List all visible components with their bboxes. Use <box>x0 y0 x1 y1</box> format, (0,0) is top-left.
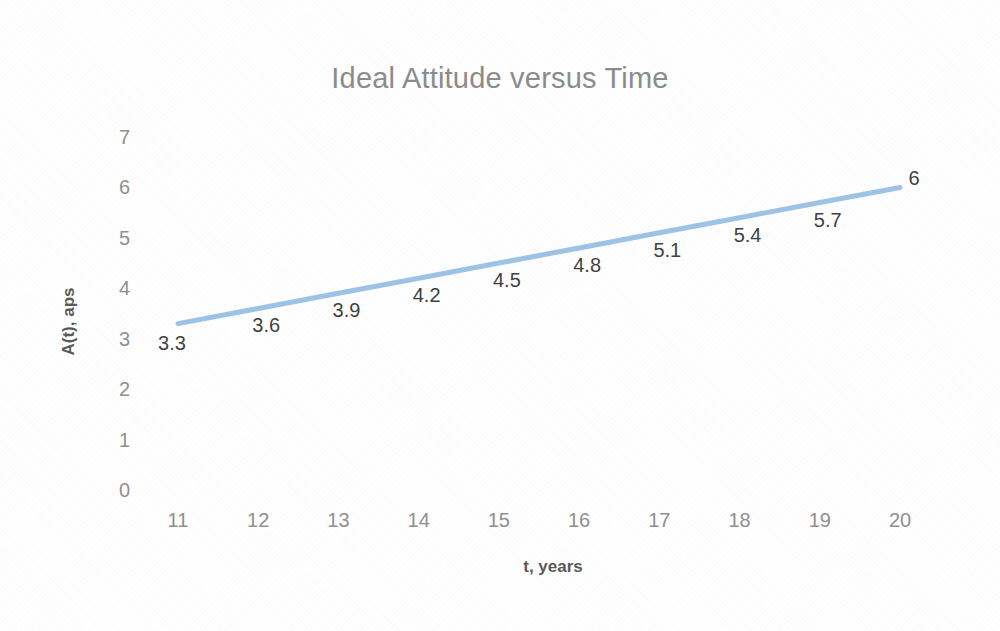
y-tick-label: 7 <box>119 126 130 148</box>
x-tick-label: 13 <box>327 509 349 531</box>
x-tick-label: 14 <box>408 509 430 531</box>
x-tick-label: 19 <box>809 509 831 531</box>
series-polyline <box>178 187 900 323</box>
y-axis-tick-labels: 01234567 <box>119 126 130 501</box>
data-point-label: 4.2 <box>413 284 441 306</box>
y-tick-label: 6 <box>119 176 130 198</box>
x-tick-label: 11 <box>168 509 189 531</box>
data-series-line <box>178 187 900 323</box>
y-tick-label: 4 <box>119 277 130 299</box>
x-tick-label: 18 <box>728 509 750 531</box>
data-point-label: 3.3 <box>158 332 186 354</box>
data-point-label: 5.7 <box>814 209 842 231</box>
data-point-label: 4.5 <box>493 269 521 291</box>
data-point-label: 4.8 <box>573 254 601 276</box>
x-tick-label: 16 <box>568 509 590 531</box>
y-tick-label: 0 <box>119 479 130 501</box>
x-tick-label: 12 <box>247 509 269 531</box>
y-tick-label: 3 <box>119 328 130 350</box>
y-tick-label: 1 <box>119 429 130 451</box>
chart-container: Ideal Attitude versus Time 01234567 1112… <box>0 0 1000 631</box>
data-point-label: 5.1 <box>653 239 681 261</box>
data-point-label: 3.6 <box>252 314 280 336</box>
x-tick-label: 20 <box>889 509 911 531</box>
x-axis-title: t, years <box>523 557 583 576</box>
x-tick-label: 17 <box>648 509 670 531</box>
data-point-labels: 3.33.63.94.24.54.85.15.45.76 <box>158 167 919 353</box>
data-point-label: 3.9 <box>333 299 361 321</box>
data-point-label: 5.4 <box>734 224 762 246</box>
y-tick-label: 5 <box>119 227 130 249</box>
y-axis-title: A(t), aps <box>59 288 78 356</box>
y-tick-label: 2 <box>119 378 130 400</box>
x-tick-label: 15 <box>488 509 510 531</box>
x-axis-tick-labels: 11121314151617181920 <box>168 509 912 531</box>
line-chart-plot: 01234567 11121314151617181920 3.33.63.94… <box>0 0 1000 631</box>
data-point-label: 6 <box>908 167 919 189</box>
